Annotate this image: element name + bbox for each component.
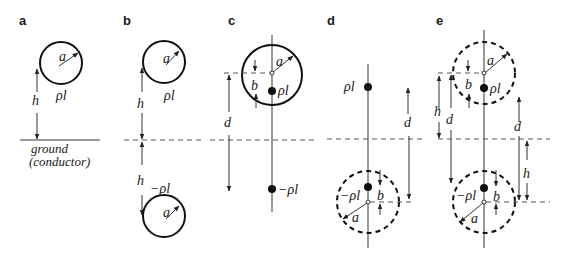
panel-e: e a b ρl h d d h −ρl b a: [434, 13, 550, 248]
offset-symbol: b: [377, 188, 384, 203]
panel-b: b a ρl h h −ρl a: [123, 13, 205, 237]
panel-label-d: d: [327, 13, 335, 28]
panel-label-a: a: [19, 13, 27, 28]
wire-center: [482, 71, 486, 75]
offset-symbol-bottom: b: [493, 189, 500, 204]
image-charge-symbol: −ρl: [278, 182, 298, 197]
image-charge-symbol: −ρl: [456, 188, 476, 203]
height-symbol-top: h: [137, 96, 144, 111]
panel-label-c: c: [228, 13, 235, 28]
line-charge: [268, 87, 276, 95]
radius-symbol-top: a: [487, 53, 494, 68]
panel-label-e: e: [436, 13, 443, 28]
charge-symbol-top: ρl: [489, 81, 501, 96]
charge-symbol-top: ρl: [163, 88, 175, 103]
line-charge: [364, 83, 372, 91]
charge-symbol: ρl: [55, 88, 67, 103]
height-symbol-left: h: [434, 104, 441, 119]
image-charge: [268, 185, 276, 193]
radius-symbol-top: a: [163, 51, 170, 66]
radius-symbol-bottom: a: [471, 211, 478, 226]
panel-label-b: b: [123, 13, 131, 28]
height-symbol-right: h: [523, 166, 530, 181]
radius-symbol-bottom: a: [163, 205, 170, 220]
charge-symbol: ρl: [343, 79, 355, 94]
image-charge: [364, 183, 372, 191]
offset-symbol-top: b: [465, 77, 472, 92]
distance-symbol-right: d: [514, 119, 522, 134]
radius-symbol: a: [276, 54, 283, 69]
line-charge: [480, 84, 488, 92]
offset-symbol: b: [251, 78, 258, 93]
panel-a: a a ρl h ground (conductor): [19, 13, 100, 169]
distance-symbol: d: [224, 115, 232, 130]
panel-c: c a b ρl d −ρl: [210, 13, 318, 212]
height-symbol: h: [32, 93, 39, 108]
charge-symbol: ρl: [277, 83, 289, 98]
height-symbol-bottom: h: [137, 173, 144, 188]
distance-symbol: d: [404, 115, 412, 130]
distance-symbol-left: d: [446, 112, 454, 127]
image-charge-figure: a a ρl h ground (conductor) b a ρl h h −…: [0, 0, 566, 256]
conductor-label: (conductor): [29, 154, 90, 169]
radius-symbol: a: [352, 210, 359, 225]
image-charge: [480, 184, 488, 192]
panel-d: d ρl d −ρl b a: [327, 13, 423, 248]
radius-symbol: a: [59, 49, 66, 64]
charge-symbol-bottom: −ρl: [150, 181, 170, 196]
image-charge-symbol: −ρl: [340, 188, 360, 203]
